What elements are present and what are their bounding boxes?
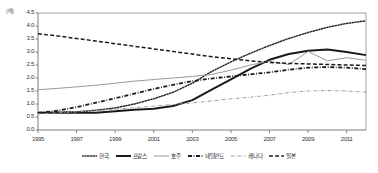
legend-swatch-icon [231, 153, 246, 159]
line-chart: (배) 0.00.51.01.52.02.53.03.54.04.5 19951… [0, 0, 378, 173]
series-line-3[interactable] [38, 67, 366, 113]
legend-item-5[interactable]: 일본 [269, 152, 296, 160]
legend-swatch-icon [154, 153, 169, 159]
legend-item-4[interactable]: 캐나다 [231, 152, 262, 160]
series-line-1[interactable] [38, 49, 366, 112]
legend-item-1[interactable]: 프랑스 [116, 152, 147, 160]
legend-label: 한국 [99, 152, 109, 160]
plot-area [0, 0, 378, 173]
legend-label: 일본 [286, 152, 296, 160]
chart-legend: 한국프랑스호주네덜란드캐나다일본 [0, 152, 378, 160]
legend-item-2[interactable]: 호주 [154, 152, 181, 160]
series-line-2[interactable] [38, 51, 366, 89]
legend-swatch-icon [269, 153, 284, 159]
legend-swatch-icon [82, 153, 97, 159]
legend-label: 캐나다 [248, 152, 262, 160]
legend-swatch-icon [116, 153, 131, 159]
legend-item-0[interactable]: 한국 [82, 152, 109, 160]
legend-label: 프랑스 [133, 152, 147, 160]
legend-item-3[interactable]: 네덜란드 [188, 152, 224, 160]
data-series-group [38, 21, 366, 114]
legend-swatch-icon [188, 153, 203, 159]
legend-label: 호주 [171, 152, 181, 160]
legend-label: 네덜란드 [205, 152, 224, 160]
